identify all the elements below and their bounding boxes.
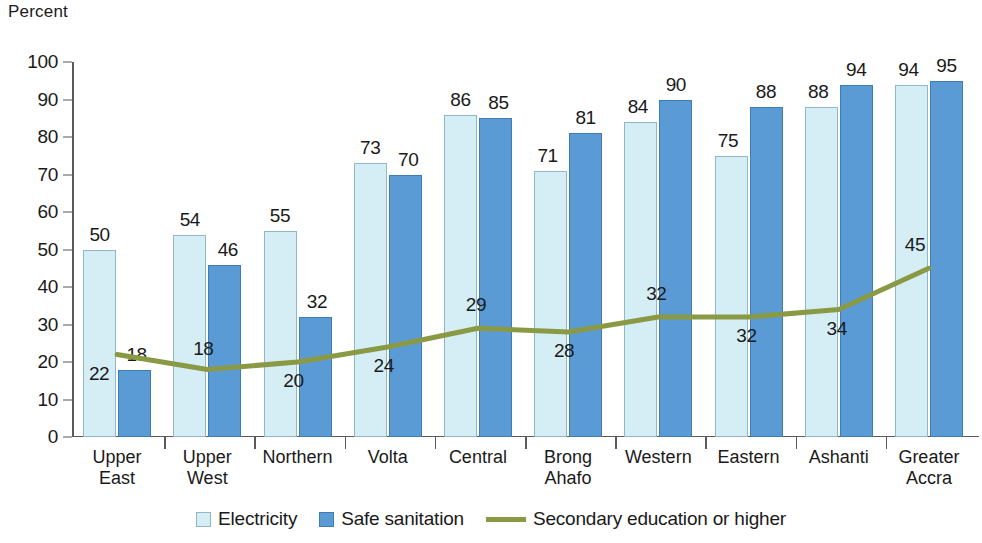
value-label-secondary-education: 45 [905,234,925,256]
x-axis-group-tick [525,437,527,449]
y-tick-label: 50 [14,239,58,261]
y-tick-label: 40 [14,276,58,298]
x-axis-group-tick [345,437,347,449]
legend-label: Safe sanitation [341,508,464,530]
legend-color-swatch-icon [319,512,334,527]
x-axis-category-label: Brong Ahafo [544,447,592,489]
x-axis-category-label: Eastern [717,447,779,468]
value-label-secondary-education: 18 [193,338,213,360]
value-label-secondary-education: 32 [736,325,756,347]
x-axis-group-tick [705,437,707,449]
secondary-education-line-series [63,62,976,437]
legend-item[interactable]: Secondary education or higher [486,508,786,530]
line-path-secondary-education [117,268,929,369]
value-label-secondary-education: 32 [646,283,666,305]
plot-area: 0102030405060708090100 50185446553273708… [63,62,976,437]
x-axis-category-label: Volta [368,447,408,468]
y-tick-label: 0 [14,426,58,448]
x-axis-category-label: Upper East [93,447,142,489]
y-tick-label: 100 [14,51,58,73]
y-tick-label: 10 [14,389,58,411]
value-label-secondary-education: 20 [283,370,303,392]
x-axis-group-tick [796,437,798,449]
legend-label: Secondary education or higher [533,508,786,530]
x-axis-category-label: Upper West [183,447,232,489]
legend-item[interactable]: Safe sanitation [319,508,464,530]
y-axis-title: Percent [8,2,68,22]
value-label-secondary-education: 29 [466,294,486,316]
legend-label: Electricity [218,508,297,530]
x-axis-group-tick [435,437,437,449]
x-axis-group-tick [886,437,888,449]
value-label-secondary-education: 34 [827,318,847,340]
legend-item[interactable]: Electricity [196,508,297,530]
y-tick-label: 90 [14,89,58,111]
chart-container: Percent 0102030405060708090100 501854465… [0,0,982,543]
x-axis-category-label: Central [449,447,507,468]
x-axis-group-tick [254,437,256,449]
x-axis-category-label: Ashanti [809,447,869,468]
value-label-secondary-education: 28 [554,340,574,362]
y-tick-label: 60 [14,201,58,223]
x-axis-category-label: Greater Accra [898,447,959,489]
x-axis-group-tick [615,437,617,449]
y-tick-label: 70 [14,164,58,186]
x-axis-category-label: Western [625,447,692,468]
legend-color-swatch-icon [196,512,211,527]
value-label-secondary-education: 24 [374,355,394,377]
y-tick-label: 30 [14,314,58,336]
chart-legend: ElectricitySafe sanitationSecondary educ… [0,508,982,530]
value-label-secondary-education: 22 [89,363,109,385]
y-tick-label: 80 [14,126,58,148]
x-axis-group-tick [164,437,166,449]
legend-line-swatch-icon [486,517,526,522]
y-tick-label: 20 [14,351,58,373]
x-axis-category-label: Northern [262,447,332,468]
